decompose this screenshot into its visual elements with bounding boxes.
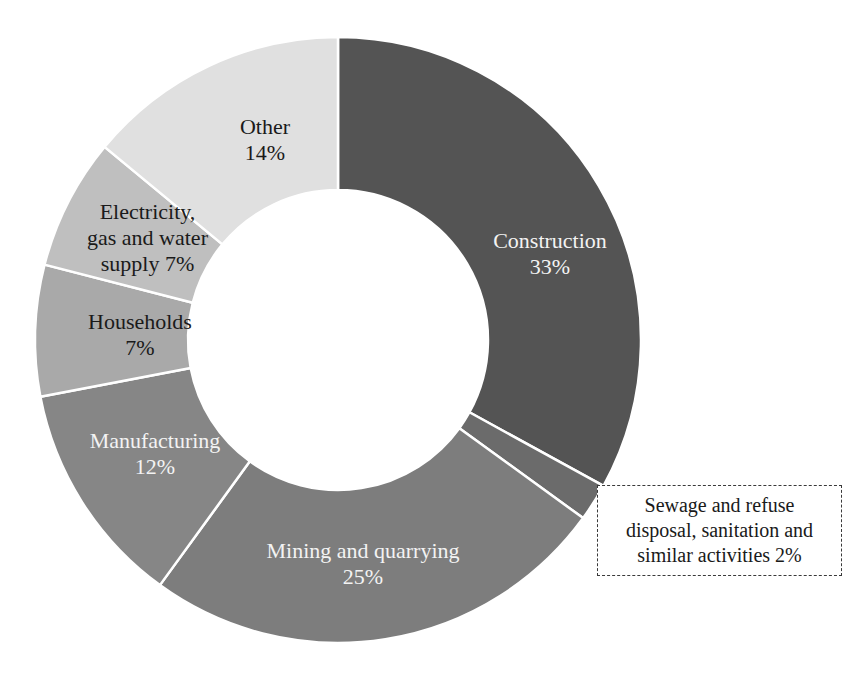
slice-callout-sewage-and-refuse-disposal: Sewage and refuse disposal, sanitation a… bbox=[597, 485, 842, 576]
donut-slice-group bbox=[35, 37, 641, 643]
donut-chart: Construction 33% Mining and quarrying 25… bbox=[0, 0, 855, 677]
donut-slice-construction[interactable] bbox=[338, 37, 641, 486]
